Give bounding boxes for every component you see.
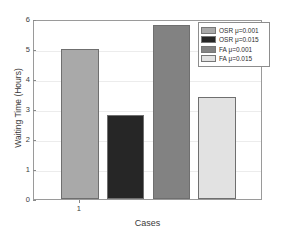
legend-item[interactable]: FA μ=0.015 — [201, 54, 267, 63]
legend-item[interactable]: FA μ=0.001 — [201, 45, 267, 54]
legend: OSR μ=0.001OSR μ=0.015FA μ=0.001FA μ=0.0… — [198, 22, 270, 67]
legend-swatch — [201, 55, 216, 62]
bar-chart-figure: 0123456 Waiting Time (Hours) Cases OSR μ… — [0, 0, 284, 237]
bar — [61, 49, 99, 199]
x-axis-tick-label: 1 — [77, 204, 81, 213]
y-axis-title: Waiting Time (Hours) — [13, 43, 23, 173]
y-axis-tick-mark — [33, 200, 36, 201]
legend-swatch — [201, 27, 216, 34]
legend-label: OSR μ=0.001 — [219, 27, 259, 34]
y-axis-tick-mark — [33, 170, 36, 171]
legend-label: FA μ=0.015 — [219, 55, 252, 62]
y-axis-tick-mark — [33, 110, 36, 111]
y-axis-tick-mark — [33, 20, 36, 21]
legend-swatch — [201, 36, 216, 43]
x-axis-title: Cases — [33, 218, 262, 228]
legend-item[interactable]: OSR μ=0.015 — [201, 35, 267, 44]
y-axis-tick-mark — [33, 140, 36, 141]
y-axis-tick-label: 0 — [4, 196, 30, 204]
x-axis-tick-mark — [79, 200, 80, 203]
bar — [107, 115, 145, 199]
y-axis-tick-mark — [33, 80, 36, 81]
legend-item[interactable]: OSR μ=0.001 — [201, 26, 267, 35]
bar — [198, 97, 236, 199]
legend-swatch — [201, 46, 216, 53]
y-axis-tick-mark — [33, 50, 36, 51]
bar — [153, 25, 191, 199]
y-axis-tick-label: 6 — [4, 16, 30, 24]
legend-label: OSR μ=0.015 — [219, 36, 259, 43]
legend-label: FA μ=0.001 — [219, 46, 252, 53]
